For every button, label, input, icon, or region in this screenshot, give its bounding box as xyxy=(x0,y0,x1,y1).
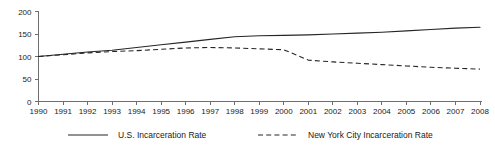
legend-label: U.S. Incarceration Rate xyxy=(118,130,207,140)
y-axis: 050100150200 xyxy=(18,8,38,107)
x-tick-label: 2001 xyxy=(299,107,317,116)
x-tick-label: 1993 xyxy=(103,107,121,116)
x-tick-label: 1991 xyxy=(54,107,72,116)
y-tick-label: 200 xyxy=(18,8,32,17)
y-tick-label: 0 xyxy=(27,98,32,107)
incarceration-rate-line-chart: 050100150200 199019911992199319941995199… xyxy=(0,0,495,145)
x-tick-label: 2004 xyxy=(373,107,391,116)
x-tick-label: 1992 xyxy=(79,107,97,116)
chart-plot-area: 050100150200 199019911992199319941995199… xyxy=(0,0,495,145)
x-tick-label: 1994 xyxy=(128,107,146,116)
x-tick-label: 2006 xyxy=(422,107,440,116)
x-tick-label: 2008 xyxy=(471,107,489,116)
x-tick-label: 2007 xyxy=(447,107,465,116)
x-axis: 1990199119921993199419951996199719981999… xyxy=(30,102,490,117)
x-tick-label: 1996 xyxy=(177,107,195,116)
y-tick-label: 50 xyxy=(23,75,32,84)
data-series-group xyxy=(39,27,481,69)
y-tick-label: 100 xyxy=(18,53,32,62)
chart-legend: U.S. Incarceration RateNew York City Inc… xyxy=(68,130,433,140)
y-tick-label: 150 xyxy=(18,30,32,39)
x-tick-label: 2000 xyxy=(275,107,293,116)
x-tick-label: 2003 xyxy=(348,107,366,116)
x-tick-label: 2005 xyxy=(398,107,416,116)
x-tick-label: 1998 xyxy=(226,107,244,116)
x-tick-label: 2002 xyxy=(324,107,342,116)
x-tick-label: 1995 xyxy=(152,107,170,116)
legend-label: New York City Incarceration Rate xyxy=(308,130,433,140)
x-tick-label: 1990 xyxy=(30,107,48,116)
x-tick-label: 1997 xyxy=(201,107,219,116)
x-tick-label: 1999 xyxy=(250,107,268,116)
